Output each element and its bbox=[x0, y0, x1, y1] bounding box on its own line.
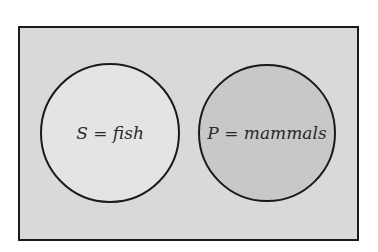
label-p-mammals: P = mammals bbox=[206, 123, 327, 143]
set-p-mammals: P = mammals bbox=[199, 65, 335, 201]
set-s-fish: S = fish bbox=[41, 64, 179, 202]
venn-diagram: S = fish P = mammals bbox=[0, 0, 378, 252]
label-s-fish: S = fish bbox=[76, 123, 144, 143]
